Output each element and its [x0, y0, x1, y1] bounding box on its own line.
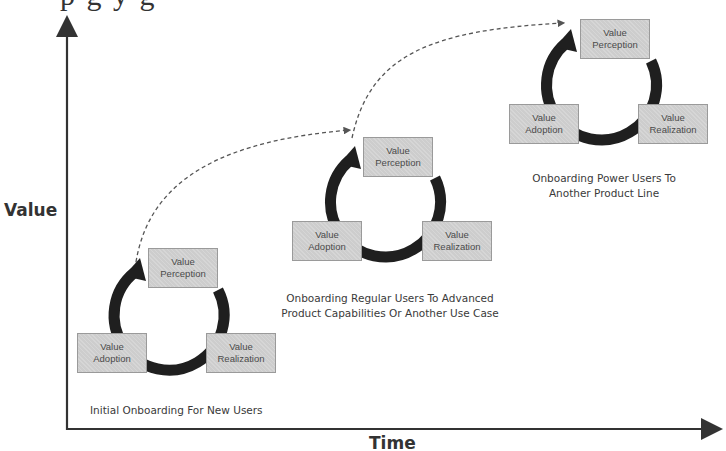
box-label-line: Perception: [592, 39, 637, 51]
cycle-2-caption: Onboarding Regular Users To Advanced Pro…: [276, 291, 504, 321]
cycle-1-value-adoption-box: Value Adoption: [77, 333, 147, 373]
caption-line: Onboarding Regular Users To Advanced: [276, 291, 504, 306]
caption-line: Another Product Line: [530, 186, 678, 201]
box-label-line: Perception: [375, 157, 420, 169]
value-cycle-diagram: p g y g: [0, 0, 726, 451]
cycle-3-value-perception-box: Value Perception: [580, 19, 650, 59]
box-label-line: Value: [445, 229, 469, 241]
y-axis-label: Value: [4, 200, 57, 220]
box-label-line: Adoption: [93, 353, 131, 365]
cycle-2-value-realization-box: Value Realization: [422, 221, 492, 261]
cycle-2-value-adoption-box: Value Adoption: [292, 221, 362, 261]
cycle-2-value-perception-box: Value Perception: [363, 137, 433, 177]
cycle-1-value-realization-box: Value Realization: [206, 333, 276, 373]
box-label-line: Value: [315, 229, 339, 241]
box-label-line: Value: [386, 145, 410, 157]
cycle-3-value-realization-box: Value Realization: [638, 104, 708, 144]
cycle-3-caption: Onboarding Power Users To Another Produc…: [530, 171, 678, 201]
box-label-line: Adoption: [308, 241, 346, 253]
box-label-line: Perception: [160, 268, 205, 280]
box-label-line: Value: [661, 112, 685, 124]
x-axis-label: Time: [369, 433, 416, 451]
caption-line: Product Capabilities Or Another Use Case: [276, 306, 504, 321]
box-label-line: Adoption: [525, 124, 563, 136]
caption-line: Initial Onboarding For New Users: [90, 403, 263, 418]
cycle-1-caption: Initial Onboarding For New Users: [90, 403, 263, 418]
caption-line: Onboarding Power Users To: [530, 171, 678, 186]
cycle-1-value-perception-box: Value Perception: [148, 248, 218, 288]
box-label-line: Value: [603, 27, 627, 39]
box-label-line: Value: [100, 341, 124, 353]
box-label-line: Realization: [434, 241, 481, 253]
box-label-line: Value: [171, 256, 195, 268]
cycle-3-value-adoption-box: Value Adoption: [509, 104, 579, 144]
diagram-graphics: [0, 0, 726, 451]
box-label-line: Realization: [650, 124, 697, 136]
box-label-line: Realization: [218, 353, 265, 365]
box-label-line: Value: [532, 112, 556, 124]
box-label-line: Value: [229, 341, 253, 353]
